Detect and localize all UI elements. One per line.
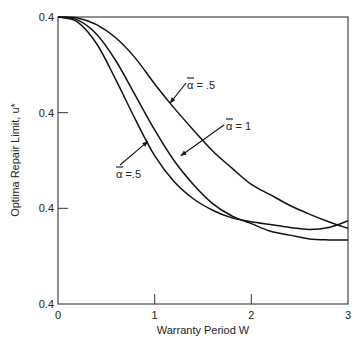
x-tick-label: 0 <box>55 309 61 321</box>
y-tick-label: 0.4 <box>39 107 54 119</box>
annotation-arrow-mid <box>181 125 224 156</box>
plot-frame <box>58 17 348 304</box>
annotation-mid: α = 1 <box>226 119 251 132</box>
annotation-upper: α = .5 <box>187 78 215 91</box>
y-tick-label: 0.4 <box>39 298 54 310</box>
x-tick-label: 3 <box>345 309 351 321</box>
annotation-upper-label: α = .5 <box>187 79 215 91</box>
annotation-mid-label: α = 1 <box>226 120 251 132</box>
y-tick-label: 0.4 <box>39 11 54 23</box>
chart: 01230.40.40.40.4 Warranty Period W Optim… <box>0 0 363 349</box>
x-axis-title: Warranty Period W <box>157 324 250 336</box>
series-line-3 <box>58 17 348 229</box>
x-tick-label: 1 <box>152 309 158 321</box>
y-axis-title: Optima Repair Limit, u* <box>9 102 21 216</box>
annotation-upper-text: = .5 <box>193 79 215 91</box>
annotation-arrowhead-mid <box>181 151 187 156</box>
annotation-lower: α =.5 <box>116 167 141 180</box>
annotation-mid-text: = 1 <box>232 120 251 132</box>
annotation-lower-text: =.5 <box>122 168 141 180</box>
x-tick-label: 2 <box>248 309 254 321</box>
y-tick-label: 0.4 <box>39 202 54 214</box>
annotation-lower-label: α =.5 <box>116 168 141 180</box>
series-line-1 <box>58 17 348 228</box>
